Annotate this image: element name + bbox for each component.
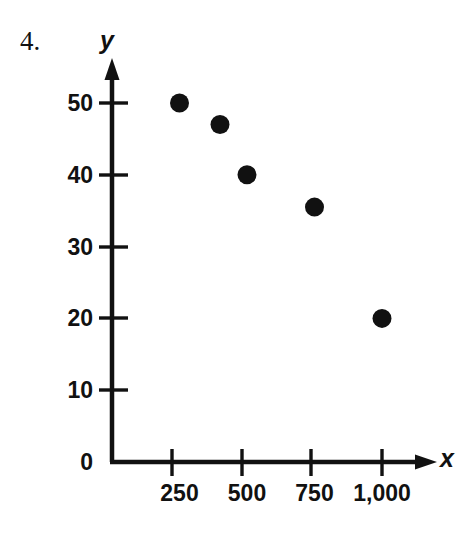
scatter-plot-figure: 4. y x 01020304050 2505007501,000 <box>0 0 473 544</box>
y-axis-arrowhead <box>105 58 120 80</box>
y-tick-label: 20 <box>67 307 93 330</box>
x-tick-label: 500 <box>228 482 266 505</box>
axes-group <box>105 58 438 470</box>
x-tick-label: 250 <box>160 482 198 505</box>
y-tick-label: 40 <box>67 163 93 186</box>
data-point <box>305 198 324 217</box>
data-point <box>373 309 392 328</box>
y-tick-label: 0 <box>80 451 93 474</box>
plot-canvas <box>0 0 473 544</box>
data-points-group <box>170 94 392 328</box>
x-axis-arrowhead <box>415 455 437 470</box>
y-tick-label: 30 <box>67 235 93 258</box>
data-point <box>170 94 189 113</box>
data-point <box>238 165 257 184</box>
y-tick-label: 50 <box>67 92 93 115</box>
y-tick-label: 10 <box>67 379 93 402</box>
x-tick-label: 750 <box>295 482 333 505</box>
data-point <box>211 115 230 134</box>
x-tick-label: 1,000 <box>353 482 411 505</box>
